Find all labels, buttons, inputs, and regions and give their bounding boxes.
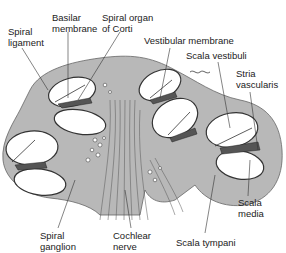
label-scala-tympani: Scala tympani xyxy=(176,237,236,248)
label-scala-media: Scala media xyxy=(238,197,264,219)
label-spiral-ligament: Spiral ligament xyxy=(8,26,44,48)
label-spiral-organ-of-corti: Spiral organ of Corti xyxy=(102,12,153,34)
label-cochlear-nerve: Cochlear nerve xyxy=(113,230,151,252)
label-stria-vascularis: Stria vascularis xyxy=(236,68,278,90)
label-spiral-ganglion: Spiral ganglion xyxy=(40,230,76,252)
label-vestibular-membrane: Vestibular membrane xyxy=(144,35,234,46)
vessel-squiggle xyxy=(190,71,210,73)
label-scala-vestibuli: Scala vestibuli xyxy=(186,50,247,61)
label-basilar-membrane: Basilar membrane xyxy=(52,12,97,34)
